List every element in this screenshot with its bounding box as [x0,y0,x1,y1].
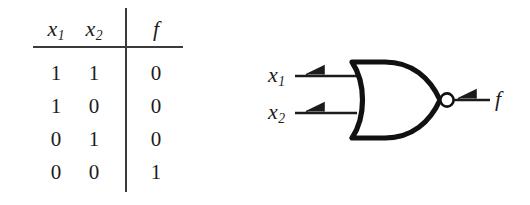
gate-diagram: x1 x2 f [262,0,530,205]
table-cell-x1: 0 [36,162,76,183]
table-cell-x1: 1 [36,96,76,117]
inversion-bubble-icon [440,93,453,106]
table-cell-x1: 0 [36,129,76,150]
table-cell-x2: 0 [74,162,114,183]
table-header-x2: x2 [74,18,114,42]
nor-gate-symbol [262,0,530,205]
or-gate-body [352,62,440,138]
nor-gate-figure: x1 x2 f 1 1 0 1 0 0 0 1 0 0 0 1 x1 x2 f [0,0,530,205]
table-cell-f: 1 [136,162,176,183]
table-cell-x2: 1 [74,63,114,84]
table-cell-x1: 1 [36,63,76,84]
table-cell-x2: 0 [74,96,114,117]
table-cell-x2: 1 [74,129,114,150]
table-cell-f: 0 [136,129,176,150]
table-cell-f: 0 [136,63,176,84]
table-header-x1: x1 [36,18,76,42]
table-column-divider [125,8,127,192]
table-header-rule [33,46,183,48]
truth-table: x1 x2 f 1 1 0 1 0 0 0 1 0 0 0 1 [0,0,230,205]
table-cell-f: 0 [136,96,176,117]
table-header-f: f [136,18,176,40]
